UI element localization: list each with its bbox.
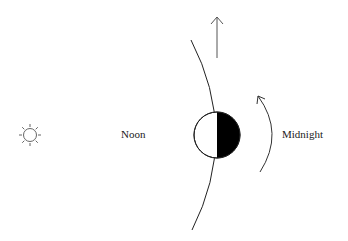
midnight-label: Midnight [282,129,323,140]
curved-arrow-icon [257,96,272,172]
up-arrow-icon [211,17,223,58]
orbit-diagram [0,0,348,241]
noon-label: Noon [121,129,145,140]
half-lit-body [194,112,240,158]
sun-icon [19,124,41,146]
